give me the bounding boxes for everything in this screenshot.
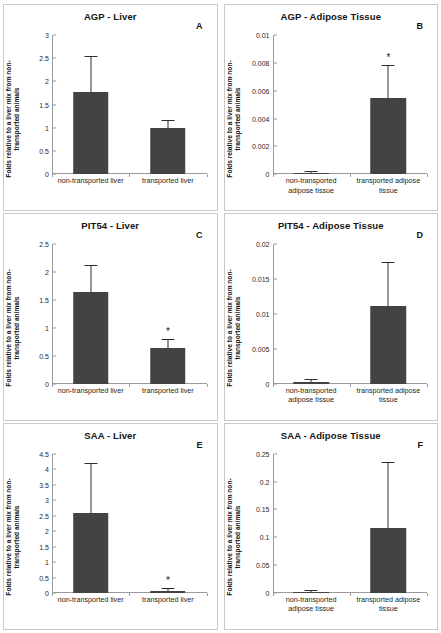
bar <box>371 306 407 383</box>
error-bar <box>311 591 312 592</box>
error-bar-cap <box>84 56 97 57</box>
y-axis-tick-labels: 00.0050.010.0150.02 <box>243 244 273 383</box>
bar-group <box>52 454 129 593</box>
bar <box>73 292 109 384</box>
error-bar <box>388 66 389 98</box>
x-axis-category-labels: non-transported adipose tissuetransporte… <box>273 176 428 206</box>
error-bar-cap <box>84 463 97 464</box>
bar-group: * <box>350 35 427 174</box>
bar-group <box>129 35 206 174</box>
x-tick-mark <box>207 593 208 596</box>
panel-title: AGP - Adipose Tissue <box>225 11 438 22</box>
significance-marker: * <box>386 55 390 61</box>
bar-group <box>273 35 350 174</box>
x-tick-mark <box>427 593 428 596</box>
error-bar-cap <box>382 65 395 66</box>
x-category-label: transported adipose tissue <box>350 595 427 625</box>
y-tick-label: 0.008 <box>252 59 270 66</box>
y-tick-label: 0.006 <box>252 87 270 94</box>
figure-panel-grid: AGP - LiverAFolds relative to a liver mi… <box>0 0 441 633</box>
error-bar-cap <box>161 339 174 340</box>
plot-area: Folds relative to a liver mix from non-t… <box>225 446 438 629</box>
bar <box>293 173 329 174</box>
y-tick-label: 0.002 <box>252 143 270 150</box>
x-category-label: transported liver <box>129 595 206 625</box>
error-bar <box>167 121 168 128</box>
axes-box <box>52 35 207 174</box>
y-tick-label: 3 <box>45 497 49 504</box>
error-bar-cap <box>305 590 318 591</box>
x-category-label: transported liver <box>129 176 206 206</box>
panel-title: SAA - Liver <box>4 430 217 441</box>
error-bar <box>311 380 312 381</box>
y-tick-label: 0.015 <box>252 276 270 283</box>
error-bar-cap <box>161 588 174 589</box>
error-bar <box>388 463 389 529</box>
x-axis-category-labels: non-transported livertransported liver <box>52 176 207 206</box>
error-bar <box>90 266 91 292</box>
bar-series: * <box>52 454 207 593</box>
bar <box>150 348 186 384</box>
y-tick-label: 0.1 <box>260 534 270 541</box>
x-category-label: non-transported adipose tissue <box>273 595 350 625</box>
y-tick-label: 2.5 <box>39 241 49 248</box>
chart-panel-f: SAA - Adipose TissueFFolds relative to a… <box>224 423 439 630</box>
error-bar <box>90 57 91 92</box>
bar-group: * <box>129 244 206 383</box>
bar <box>150 128 186 174</box>
y-tick-label: 0.5 <box>39 148 49 155</box>
chart-panel-d: PIT54 - Adipose TissueDFolds relative to… <box>224 213 439 420</box>
y-tick-label: 0.2 <box>260 478 270 485</box>
y-tick-label: 0.05 <box>256 562 270 569</box>
y-tick-label: 3 <box>45 32 49 39</box>
panel-title: AGP - Liver <box>4 11 217 22</box>
bar-series: * <box>52 244 207 383</box>
bar <box>73 513 109 593</box>
axes-box: * <box>273 35 428 174</box>
y-axis-tick-labels: 00.511.522.5 <box>22 244 52 383</box>
bar-group: * <box>129 454 206 593</box>
plot-area: Folds relative to a liver mix from non-t… <box>4 236 217 419</box>
bar-group <box>273 244 350 383</box>
x-axis-category-labels: non-transported livertransported liver <box>52 595 207 625</box>
x-category-label: non-transported liver <box>52 176 129 206</box>
y-tick-label: 2.5 <box>39 55 49 62</box>
y-axis-tick-labels: 00.511.522.53 <box>22 35 52 174</box>
axes-box: * <box>52 454 207 593</box>
axes-box <box>273 244 428 383</box>
y-tick-label: 0.25 <box>256 450 270 457</box>
y-tick-label: 1 <box>45 324 49 331</box>
error-bar <box>90 464 91 514</box>
y-tick-label: 2 <box>45 269 49 276</box>
y-tick-label: 1 <box>45 124 49 131</box>
bar-group <box>52 244 129 383</box>
chart-panel-c: PIT54 - LiverCFolds relative to a liver … <box>3 213 218 420</box>
y-tick-label: 0.5 <box>39 574 49 581</box>
x-category-label: non-transported adipose tissue <box>273 386 350 416</box>
y-tick-label: 0 <box>266 380 270 387</box>
y-tick-label: 1 <box>45 559 49 566</box>
chart-panel-e: SAA - LiverEFolds relative to a liver mi… <box>3 423 218 630</box>
error-bar <box>167 589 168 590</box>
bar <box>73 92 109 175</box>
y-axis-label: Folds relative to a liver mix from non-t… <box>5 269 21 387</box>
y-tick-label: 0.005 <box>252 345 270 352</box>
bar-group <box>273 454 350 593</box>
bar-group <box>52 35 129 174</box>
axes-box <box>273 454 428 593</box>
y-tick-label: 4 <box>45 466 49 473</box>
x-tick-mark <box>427 384 428 387</box>
x-category-label: non-transported liver <box>52 386 129 416</box>
panel-title: PIT54 - Adipose Tissue <box>225 220 438 231</box>
error-bar-cap <box>382 262 395 263</box>
panel-title: SAA - Adipose Tissue <box>225 430 438 441</box>
y-axis-tick-labels: 00.050.10.150.20.25 <box>243 454 273 593</box>
y-tick-label: 0.01 <box>256 310 270 317</box>
y-tick-label: 0 <box>45 589 49 596</box>
error-bar-cap <box>305 379 318 380</box>
y-axis-label: Folds relative to a liver mix from non-t… <box>226 269 242 387</box>
error-bar <box>388 263 389 306</box>
y-tick-label: 0.004 <box>252 115 270 122</box>
y-tick-label: 0 <box>266 171 270 178</box>
y-tick-label: 1.5 <box>39 543 49 550</box>
